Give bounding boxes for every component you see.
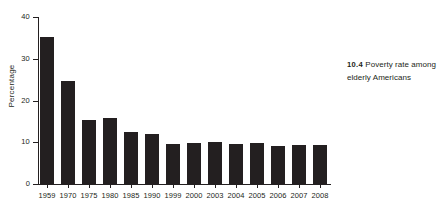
x-tick-mark xyxy=(278,184,279,188)
x-tick-mark xyxy=(89,184,90,188)
bar xyxy=(292,145,306,184)
y-axis-line xyxy=(38,17,39,185)
bar xyxy=(103,118,117,184)
x-axis-line xyxy=(38,184,331,185)
bar xyxy=(61,81,75,184)
y-tick-mark xyxy=(33,17,38,18)
figure-caption-number: 10.4 xyxy=(347,60,363,69)
y-tick-label: 30 xyxy=(2,55,30,63)
x-tick-mark xyxy=(257,184,258,188)
figure-poverty-rate-elderly-americans: Percentage 010203040 1959197019751980198… xyxy=(0,0,443,214)
y-tick-label: 10 xyxy=(2,138,30,146)
x-tick-mark xyxy=(152,184,153,188)
bar xyxy=(271,146,285,184)
bar xyxy=(124,132,138,184)
x-tick-mark xyxy=(110,184,111,188)
x-tick-mark xyxy=(215,184,216,188)
bar xyxy=(313,145,327,184)
bar xyxy=(166,144,180,184)
bar xyxy=(208,142,222,184)
y-tick-label: 40 xyxy=(2,13,30,21)
bar xyxy=(145,134,159,184)
bar xyxy=(40,37,54,184)
y-axis-title: Percentage xyxy=(8,56,16,116)
x-tick-mark xyxy=(131,184,132,188)
x-tick-mark xyxy=(194,184,195,188)
y-tick-label: 20 xyxy=(2,97,30,105)
x-tick-mark xyxy=(320,184,321,188)
y-tick-label: 0 xyxy=(2,180,30,188)
y-tick-mark xyxy=(33,184,38,185)
bar xyxy=(250,143,264,184)
bar xyxy=(187,143,201,184)
x-tick-mark xyxy=(68,184,69,188)
figure-caption: 10.4 Poverty rate among elderly American… xyxy=(347,59,439,84)
bar xyxy=(82,120,96,184)
x-tick-mark xyxy=(236,184,237,188)
y-tick-mark xyxy=(33,59,38,60)
x-tick-mark xyxy=(47,184,48,188)
y-tick-mark xyxy=(33,142,38,143)
bar xyxy=(229,144,243,184)
x-tick-mark xyxy=(173,184,174,188)
y-tick-mark xyxy=(33,101,38,102)
x-tick-label: 2008 xyxy=(305,192,335,200)
bar-chart-plot-area: Percentage 010203040 1959197019751980198… xyxy=(0,0,340,214)
x-tick-mark xyxy=(299,184,300,188)
